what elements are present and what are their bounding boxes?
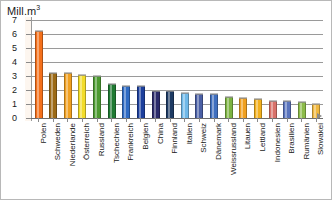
- x-axis-label: Österreich: [82, 123, 91, 160]
- x-tick-slot: [224, 118, 233, 122]
- bar[interactable]: [195, 94, 203, 119]
- x-tick-mark: [199, 118, 200, 122]
- x-label-slot: Rumänien: [297, 123, 306, 199]
- x-label-slot: Polen: [34, 123, 43, 199]
- x-tick-slot: [166, 118, 175, 122]
- x-label-slot: Indonesien: [268, 123, 277, 199]
- bar[interactable]: [108, 84, 116, 118]
- bar[interactable]: [283, 101, 291, 118]
- x-tick-mark: [301, 118, 302, 122]
- bar[interactable]: [137, 86, 145, 118]
- y-axis-title-superscript: 3: [36, 4, 40, 11]
- x-tick-mark: [140, 118, 141, 122]
- bar[interactable]: [254, 99, 262, 118]
- y-tick-label: 2: [0, 85, 17, 95]
- bar-slot: [239, 20, 248, 118]
- y-tick-label: 6: [0, 29, 17, 39]
- x-tick-mark: [38, 118, 39, 122]
- bar-slot: [166, 20, 175, 118]
- y-tick-label: 7: [0, 15, 17, 25]
- x-tick-slot: [93, 118, 102, 122]
- bar-slot: [49, 20, 58, 118]
- bar-slot: [107, 20, 116, 118]
- bar-slot: [180, 20, 189, 118]
- x-label-slot: Finnland: [166, 123, 175, 199]
- bar[interactable]: [78, 75, 86, 118]
- x-tick-mark: [272, 118, 273, 122]
- bar[interactable]: [166, 91, 174, 118]
- x-tick-slot: [180, 118, 189, 122]
- bar[interactable]: [181, 93, 189, 118]
- x-tick-mark: [243, 118, 244, 122]
- x-axis-label: Lettland: [258, 123, 267, 151]
- x-label-slot: Tschechien: [107, 123, 116, 199]
- x-label-slot: Dänemark: [210, 123, 219, 199]
- x-tick-slot: [283, 118, 292, 122]
- x-tick-mark: [155, 118, 156, 122]
- x-tick-slot: [268, 118, 277, 122]
- bar-slot: [253, 20, 262, 118]
- x-label-slot: Schweiz: [195, 123, 204, 199]
- bar-slot: [195, 20, 204, 118]
- bar[interactable]: [35, 31, 43, 118]
- x-axis-label: Frankreich: [126, 123, 135, 161]
- y-tick-label: 3: [0, 71, 17, 81]
- bar[interactable]: [210, 94, 218, 118]
- bar[interactable]: [225, 97, 233, 118]
- bar[interactable]: [93, 76, 101, 118]
- x-tick-mark: [126, 118, 127, 122]
- bar[interactable]: [298, 102, 306, 118]
- x-tick-mark: [82, 118, 83, 122]
- x-tick-mark: [184, 118, 185, 122]
- y-tick-label: 5: [0, 43, 17, 53]
- x-label-slot: Litauen: [239, 123, 248, 199]
- bar-slot: [283, 20, 292, 118]
- x-tick-slot: [239, 118, 248, 122]
- bar-slot: [268, 20, 277, 118]
- bar-chart: Mill.m3 76543210 PolenSchwedenNiederland…: [0, 0, 332, 200]
- x-tick-mark: [67, 118, 68, 122]
- x-tick-slot: [210, 118, 219, 122]
- bar[interactable]: [152, 91, 160, 118]
- bar[interactable]: [269, 101, 277, 119]
- bar[interactable]: [122, 86, 130, 118]
- x-tick-slot: [136, 118, 145, 122]
- x-axis-labels: PolenSchwedenNiederlandeÖsterreichRussla…: [31, 123, 323, 199]
- x-label-slot: Lettland: [253, 123, 262, 199]
- bar-series: [31, 20, 323, 118]
- bar-slot: [122, 20, 131, 118]
- bar[interactable]: [49, 73, 57, 119]
- x-axis-label: Polen: [39, 123, 48, 143]
- x-axis-label: Niederlande: [68, 123, 77, 166]
- x-tick-mark: [214, 118, 215, 122]
- x-tick-slot: [297, 118, 306, 122]
- x-label-slot: Slowakei: [312, 123, 321, 199]
- x-tick-slot: [63, 118, 72, 122]
- x-axis-label: Dänemark: [214, 123, 223, 160]
- x-tick-mark: [257, 118, 258, 122]
- x-tick-slot: [253, 118, 262, 122]
- x-axis-label: Belgien: [141, 123, 150, 150]
- x-axis-arrow-icon: [317, 113, 322, 119]
- x-axis-label: Indonesien: [273, 123, 282, 162]
- x-tick-mark: [228, 118, 229, 122]
- x-axis-label: Brasilien: [287, 123, 296, 154]
- x-axis-label: China: [156, 123, 165, 144]
- bar-slot: [224, 20, 233, 118]
- x-label-slot: Belgien: [136, 123, 145, 199]
- bar-slot: [34, 20, 43, 118]
- x-axis-label: Weissrussland: [229, 123, 238, 175]
- bar-slot: [210, 20, 219, 118]
- x-label-slot: Österreich: [78, 123, 87, 199]
- bar-slot: [151, 20, 160, 118]
- bar-slot: [78, 20, 87, 118]
- x-tick-slot: [107, 118, 116, 122]
- x-label-slot: Schweden: [49, 123, 58, 199]
- x-tick-mark: [287, 118, 288, 122]
- x-axis-label: Finnland: [170, 123, 179, 154]
- bar[interactable]: [239, 98, 247, 118]
- plot-area: 76543210: [31, 20, 323, 118]
- bar[interactable]: [64, 73, 72, 118]
- bar-slot: [63, 20, 72, 118]
- y-tick-label: 4: [0, 57, 17, 67]
